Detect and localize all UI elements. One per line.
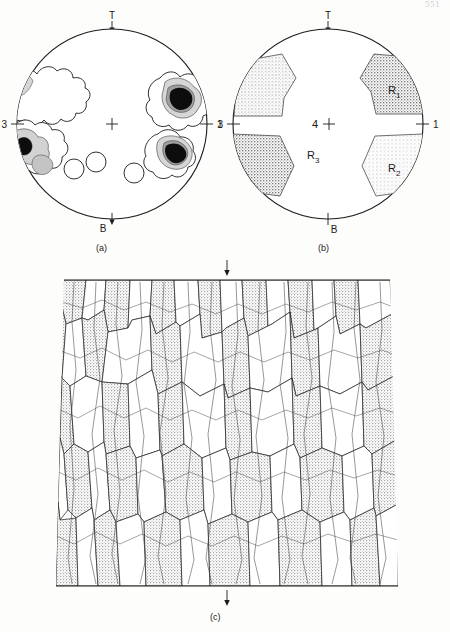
- panel-a-open-circle-3: [124, 163, 144, 183]
- panel-a-caption: (a): [96, 243, 107, 253]
- panel-a-left-label: 3: [1, 119, 7, 130]
- svg-text:T: T: [325, 10, 331, 21]
- svg-text:3: 3: [315, 156, 320, 165]
- svg-text:1: 1: [396, 91, 401, 100]
- panel-a-bottom-label: B: [100, 223, 107, 234]
- panel-c-top-marker: [224, 260, 229, 276]
- panel-b-bottom-label: B: [331, 224, 338, 235]
- panel-b-caption: (b): [318, 243, 329, 253]
- panel-c-bottom-marker: [224, 590, 229, 606]
- panel-b-center-number: 4: [312, 118, 318, 130]
- panel-a-pole-figure: T: [8, 6, 226, 262]
- svg-text:R: R: [307, 149, 315, 161]
- panel-b-left-label: 3: [217, 119, 223, 130]
- svg-text:2: 2: [396, 169, 401, 178]
- panel-c-grain-structure: [42, 258, 412, 632]
- panel-a-open-circle-2: [86, 152, 106, 172]
- panel-c-grain-field: [52, 276, 404, 590]
- svg-text:T: T: [109, 10, 115, 21]
- figure-page: 551 T: [0, 0, 450, 632]
- panel-c-caption: (c): [210, 612, 221, 622]
- svg-text:R: R: [388, 84, 396, 96]
- svg-text:R: R: [388, 162, 396, 174]
- panel-b-pole-figure: T R 1 R 2: [224, 6, 442, 262]
- panel-b-right-label: 1: [433, 119, 439, 130]
- panel-a-open-circle-1: [64, 159, 84, 179]
